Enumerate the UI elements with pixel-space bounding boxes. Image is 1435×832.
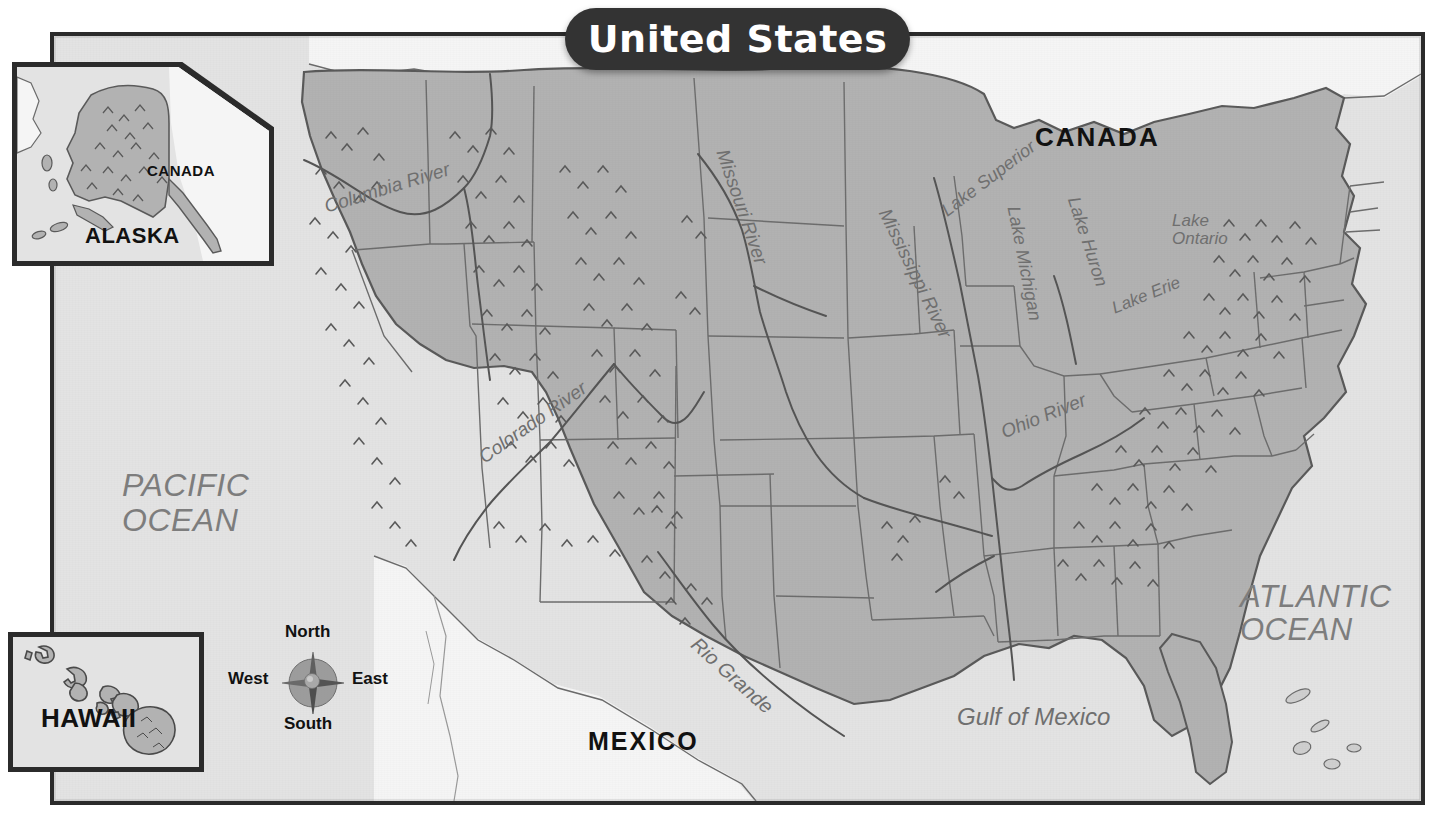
label-mexico: MEXICO bbox=[588, 727, 699, 756]
hawaii-inset-label: HAWAII bbox=[41, 703, 136, 734]
compass-label-east: East bbox=[352, 669, 388, 689]
hawaii-map-graphic bbox=[13, 637, 199, 767]
compass-label-west: West bbox=[228, 669, 268, 689]
label-atlantic-ocean: ATLANTIC OCEAN bbox=[1240, 580, 1392, 647]
label-gulf-of-mexico: Gulf of Mexico bbox=[957, 703, 1110, 731]
compass-label-north: North bbox=[285, 622, 330, 642]
label-lake-ontario: Lake Ontario bbox=[1172, 212, 1242, 248]
compass-rose-graphic bbox=[282, 652, 344, 714]
label-pacific-line2: OCEAN bbox=[122, 503, 249, 538]
label-canada: CANADA bbox=[1035, 122, 1160, 153]
compass-label-south: South bbox=[284, 714, 332, 734]
compass-rose: North South East West bbox=[228, 622, 398, 740]
label-pacific-ocean: PACIFIC OCEAN bbox=[122, 468, 249, 537]
hawaii-inset-frame: HAWAII bbox=[8, 632, 204, 772]
alaska-inset-label-canada: CANADA bbox=[147, 162, 215, 179]
label-pacific-line1: PACIFIC bbox=[122, 468, 249, 503]
map-title-banner: United States bbox=[565, 8, 910, 70]
alaska-inset-label-alaska: ALASKA bbox=[85, 223, 180, 249]
page-title: United States bbox=[588, 17, 888, 61]
map-page: United States CANADA MEXICO PACIFIC OCEA… bbox=[0, 0, 1435, 832]
label-atlantic-line2: OCEAN bbox=[1240, 613, 1392, 646]
label-atlantic-line1: ATLANTIC bbox=[1240, 580, 1392, 613]
